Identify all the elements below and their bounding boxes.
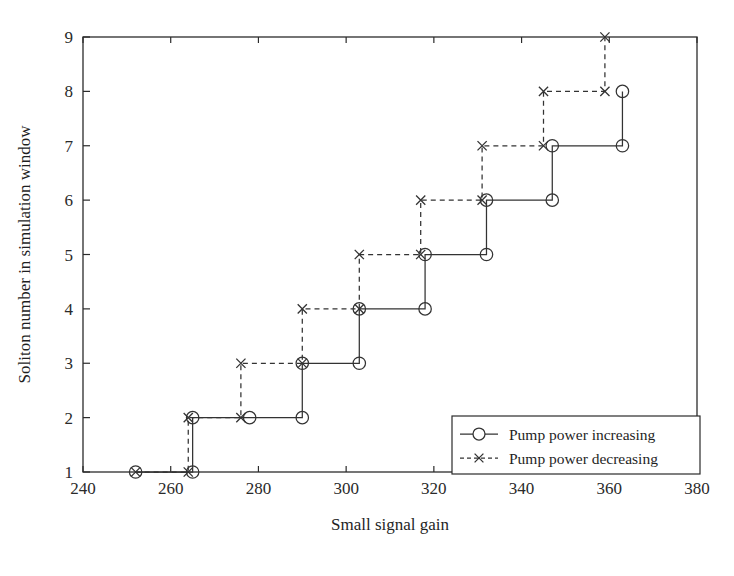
x-tick-label: 260 (158, 479, 184, 498)
y-tick-label: 9 (65, 28, 74, 47)
x-tick-label: 320 (421, 479, 447, 498)
y-tick-label: 4 (65, 300, 74, 319)
chart-legend: Pump power increasingPump power decreasi… (452, 416, 700, 474)
x-tick-label: 340 (509, 479, 535, 498)
plot-area: 240260280300320340360380 123456789 Small… (0, 0, 734, 576)
y-tick-label: 6 (65, 191, 74, 210)
figure-background (0, 0, 734, 576)
x-tick-label: 360 (597, 479, 623, 498)
chart-figure: 240260280300320340360380 123456789 Small… (0, 0, 734, 576)
y-tick-label: 1 (65, 463, 74, 482)
legend-label: Pump power increasing (509, 426, 656, 443)
x-axis-title: Small signal gain (331, 515, 450, 534)
circle-marker (473, 428, 485, 440)
legend-label: Pump power decreasing (509, 450, 658, 467)
x-tick-label: 380 (684, 479, 710, 498)
y-tick-label: 2 (65, 409, 74, 428)
y-tick-label: 3 (65, 354, 74, 373)
y-tick-label: 8 (65, 82, 74, 101)
y-axis-title: Soliton number in simulation window (15, 125, 34, 384)
y-tick-label: 7 (65, 137, 74, 156)
x-tick-label: 240 (70, 479, 96, 498)
x-tick-label: 300 (333, 479, 359, 498)
x-tick-label: 280 (246, 479, 272, 498)
y-tick-label: 5 (65, 246, 74, 265)
